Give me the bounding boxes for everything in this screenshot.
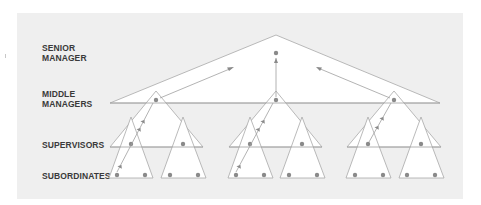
supervisor-node [181,142,185,146]
subordinate-node [315,173,319,177]
senior-manager-node [274,51,278,55]
subordinate-node [168,173,172,177]
subordinate-node [433,173,437,177]
hierarchy-diagram [0,0,481,205]
supervisor-node [419,142,423,146]
middle-manager-node-1 [154,98,158,102]
subordinate-node [115,173,119,177]
subordinate-node [143,173,147,177]
supervisor-node [300,142,304,146]
middle-manager-node-2 [274,98,278,102]
supervisor-node [366,142,370,146]
subordinate-node [234,173,238,177]
subordinate-node [405,173,409,177]
middle-manager-node-3 [392,98,396,102]
subordinate-node [353,173,357,177]
subordinate-node [381,173,385,177]
subordinate-node [287,173,291,177]
subordinate-node [262,173,266,177]
subordinate-node [196,173,200,177]
